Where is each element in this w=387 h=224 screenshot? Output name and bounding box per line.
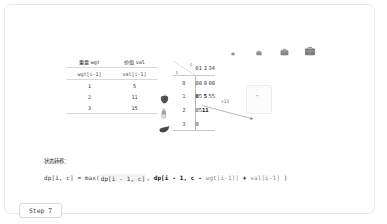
item-icons-column bbox=[157, 91, 171, 136]
bag-4-icon bbox=[297, 42, 323, 61]
bag-1-icon bbox=[221, 42, 247, 61]
item-weight: 1 bbox=[67, 80, 112, 91]
item-value: 5 bbox=[112, 80, 157, 91]
items-table-header-index: wgt[i-1] val[i-1] bbox=[67, 68, 157, 80]
eggplant-icon bbox=[157, 121, 171, 136]
items-table-row: 3 15 bbox=[67, 102, 157, 113]
items-table-row: 1 5 bbox=[67, 80, 157, 91]
dp-row: 3 0 bbox=[173, 117, 215, 131]
formula-val: val[i-1] bbox=[250, 174, 280, 181]
dp-cell: 0 bbox=[212, 76, 215, 90]
items-header-val-expr: val[i-1] bbox=[112, 68, 157, 80]
dp-col-axis-label: c bbox=[190, 62, 193, 67]
dp-row-header: 1 bbox=[173, 90, 195, 104]
bag-2-icon bbox=[246, 42, 272, 61]
item-value: 11 bbox=[112, 91, 157, 102]
item-value: 15 bbox=[112, 102, 157, 113]
dp-cell bbox=[212, 117, 215, 131]
dp-row-header: 3 bbox=[173, 117, 195, 131]
dp-corner-cell: c i bbox=[173, 61, 195, 76]
items-table-header-cn: 重量 wgt 价值 val bbox=[67, 55, 157, 68]
item-weight: 3 bbox=[67, 102, 112, 113]
dp-col-header: 4 bbox=[212, 61, 215, 76]
dp-gain-label: +11 bbox=[221, 99, 229, 104]
formula-option-2-wgt: wgt[i-1]] bbox=[206, 174, 239, 181]
items-header-wgt-expr: wgt[i-1] bbox=[67, 68, 112, 80]
dp-cell bbox=[212, 103, 215, 117]
dp-row: 1 0 5 5 5 5 bbox=[173, 90, 215, 104]
items-table: 重量 wgt 价值 val wgt[i-1] val[i-1] 1 5 2 11… bbox=[67, 55, 157, 114]
dp-row: 2 0 5 11 bbox=[173, 103, 215, 117]
bag-icons-row bbox=[195, 43, 323, 61]
dp-row-header: 0 bbox=[173, 76, 195, 90]
slide-card: 重量 wgt 价值 val wgt[i-1] val[i-1] 1 5 2 11… bbox=[4, 4, 375, 214]
transition-label: 状态转移： bbox=[44, 157, 69, 165]
items-header-value: 价值 val bbox=[112, 55, 157, 68]
dp-row-axis-label: i bbox=[176, 70, 179, 75]
bag-0-icon bbox=[195, 42, 221, 61]
dp-row-header: 2 bbox=[173, 103, 195, 117]
transition-formula: dp[i, c] = max(dp[i - 1, c], dp[i - 1, c… bbox=[44, 174, 287, 181]
dp-highlight-box bbox=[246, 85, 272, 114]
dp-col-header-row: c i 0 1 2 3 4 bbox=[173, 61, 215, 76]
dp-row: 0 0 0 0 0 0 bbox=[173, 76, 215, 90]
formula-plus: + bbox=[243, 174, 247, 181]
formula-comma: , bbox=[146, 174, 150, 181]
item-weight: 2 bbox=[67, 91, 112, 102]
formula-lhs: dp[i, c] = max( bbox=[44, 174, 100, 181]
dp-table: c i 0 1 2 3 4 0 0 0 0 0 0 1 0 bbox=[173, 61, 215, 131]
formula-option-1: dp[i - 1, c] bbox=[100, 174, 147, 182]
salt-shaker-icon bbox=[157, 106, 171, 121]
dp-cell: 5 bbox=[212, 90, 215, 104]
dp-tick-label: + bbox=[256, 93, 258, 98]
bag-3-icon bbox=[272, 42, 298, 61]
items-header-weight: 重量 wgt bbox=[67, 55, 112, 68]
step-button[interactable]: Step 7 bbox=[19, 203, 62, 218]
formula-option-2-bold: dp[i - 1, c - bbox=[154, 174, 206, 181]
formula-close: ) bbox=[284, 174, 288, 181]
items-table-row: 2 11 bbox=[67, 91, 157, 102]
apple-icon bbox=[157, 91, 171, 106]
